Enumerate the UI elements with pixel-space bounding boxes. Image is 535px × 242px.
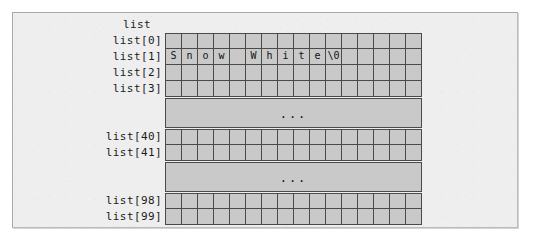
- array-row: [165, 129, 422, 145]
- array-cell: e: [310, 49, 326, 64]
- array-cell: [214, 34, 230, 48]
- array-cell: [246, 209, 262, 224]
- array-cell: [246, 130, 262, 144]
- array-cell: [262, 81, 278, 96]
- row-label: list[0]: [12, 33, 162, 49]
- row-label: list[3]: [12, 81, 162, 97]
- array-cell: [230, 194, 246, 208]
- array-cell: [374, 49, 390, 64]
- array-cell: [326, 194, 342, 208]
- array-cell: [358, 130, 374, 144]
- array-cell: [390, 81, 406, 96]
- array-cell: [278, 65, 294, 80]
- array-cell: [294, 209, 310, 224]
- row-label-column: list[0]list[1]list[2]list[3]list[40]list…: [13, 13, 165, 229]
- figure-root: list list[0]list[1]list[2]list[3]list[40…: [0, 0, 535, 242]
- array-cell: [406, 34, 422, 48]
- array-cell: [214, 145, 230, 160]
- array-cell: [262, 65, 278, 80]
- array-cell: [374, 65, 390, 80]
- array-cell: [246, 65, 262, 80]
- row-label: list[2]: [12, 65, 162, 81]
- array-cell: [342, 145, 358, 160]
- array-cell: [182, 81, 198, 96]
- ellipsis-band: ...: [165, 98, 422, 128]
- array-row: [165, 145, 422, 161]
- array-cell: [230, 34, 246, 48]
- array-cell: [406, 145, 422, 160]
- array-row: [165, 81, 422, 97]
- ellipsis-band: ...: [165, 162, 422, 192]
- array-cell: [310, 81, 326, 96]
- array-cell: [342, 49, 358, 64]
- array-cell: [278, 209, 294, 224]
- array-cell: [326, 65, 342, 80]
- array-cell: [406, 194, 422, 208]
- array-row: [165, 209, 422, 225]
- diagram-panel: list list[0]list[1]list[2]list[3]list[40…: [12, 12, 518, 228]
- array-cell: [182, 145, 198, 160]
- array-cell: [230, 130, 246, 144]
- array-cell: [358, 209, 374, 224]
- array-cell: [214, 81, 230, 96]
- array-cell: [182, 194, 198, 208]
- array-cell: [198, 81, 214, 96]
- array-cell: i: [278, 49, 294, 64]
- array-cell: [390, 65, 406, 80]
- array-cell: w: [214, 49, 230, 64]
- array-cell: [246, 194, 262, 208]
- row-label: list[99]: [12, 209, 162, 225]
- array-cell: [310, 194, 326, 208]
- array-cell: [358, 34, 374, 48]
- array-row: [165, 33, 422, 49]
- array-cell: [342, 130, 358, 144]
- array-cell: [310, 209, 326, 224]
- array-cell: [390, 130, 406, 144]
- array-cell: [262, 130, 278, 144]
- array-cell: [294, 34, 310, 48]
- array-cell: [390, 34, 406, 48]
- array-row: [165, 193, 422, 209]
- array-cell: h: [262, 49, 278, 64]
- array-cell: [374, 145, 390, 160]
- array-cell: [262, 194, 278, 208]
- row-label: list[41]: [12, 145, 162, 161]
- array-cell: [166, 81, 182, 96]
- array-cell: [390, 145, 406, 160]
- array-cell: [166, 209, 182, 224]
- array-cell: [278, 194, 294, 208]
- row-label: list[40]: [12, 129, 162, 145]
- array-cell: [182, 65, 198, 80]
- array-cell: [406, 209, 422, 224]
- array-cell: [246, 145, 262, 160]
- array-cell: [230, 81, 246, 96]
- array-cell: [310, 145, 326, 160]
- array-cell: [342, 194, 358, 208]
- array-cell: [294, 65, 310, 80]
- array-row: SnowWhite\0: [165, 49, 422, 65]
- array-cell: [374, 81, 390, 96]
- array-cell: [198, 34, 214, 48]
- array-cell: [342, 209, 358, 224]
- row-label: list[1]: [12, 49, 162, 65]
- array-cell: [166, 145, 182, 160]
- array-cell: [406, 65, 422, 80]
- array-cell: [310, 65, 326, 80]
- array-cell: [166, 65, 182, 80]
- array-cell: [246, 81, 262, 96]
- array-cell: [182, 130, 198, 144]
- array-cell: [342, 65, 358, 80]
- array-cell: [326, 145, 342, 160]
- array-cell: [198, 209, 214, 224]
- array-cell: [374, 194, 390, 208]
- array-cell: W: [246, 49, 262, 64]
- array-cell: [214, 130, 230, 144]
- array-cell: [166, 34, 182, 48]
- array-cell: [214, 209, 230, 224]
- array-cell: [358, 65, 374, 80]
- array-cell: [198, 194, 214, 208]
- row-label: list[98]: [12, 193, 162, 209]
- array-cell: [278, 81, 294, 96]
- array-cell: [310, 130, 326, 144]
- array-cell: [246, 34, 262, 48]
